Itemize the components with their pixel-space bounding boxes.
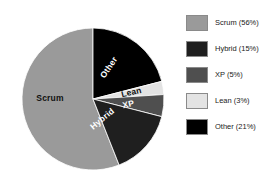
legend-item-label: Other (21%) xyxy=(215,123,256,131)
legend-swatch-icon xyxy=(186,119,208,135)
legend-swatch-icon xyxy=(186,93,208,109)
pie-chart-svg: Scrum Other Lean XP Hybrid xyxy=(0,0,180,188)
chart-legend: Scrum (56%) Hybrid (15%) XP (5%) Lean (3… xyxy=(186,10,261,140)
legend-item[interactable]: Lean (3%) xyxy=(186,88,261,114)
legend-swatch-icon xyxy=(186,41,208,57)
legend-item[interactable]: XP (5%) xyxy=(186,62,261,88)
legend-item-label: Lean (3%) xyxy=(215,97,250,105)
legend-item-label: Scrum (56%) xyxy=(215,19,259,27)
legend-item-label: Hybrid (15%) xyxy=(215,45,259,53)
legend-item-label: XP (5%) xyxy=(215,71,243,79)
pie-chart-figure: Scrum Other Lean XP Hybrid Scrum (56%) H… xyxy=(0,0,261,188)
pie-label-scrum: Scrum xyxy=(36,93,64,103)
legend-item[interactable]: Other (21%) xyxy=(186,114,261,140)
legend-item[interactable]: Hybrid (15%) xyxy=(186,36,261,62)
legend-swatch-icon xyxy=(186,67,208,83)
pie-chart-plot-area: Scrum Other Lean XP Hybrid xyxy=(0,0,180,188)
legend-swatch-icon xyxy=(186,15,208,31)
legend-item[interactable]: Scrum (56%) xyxy=(186,10,261,36)
